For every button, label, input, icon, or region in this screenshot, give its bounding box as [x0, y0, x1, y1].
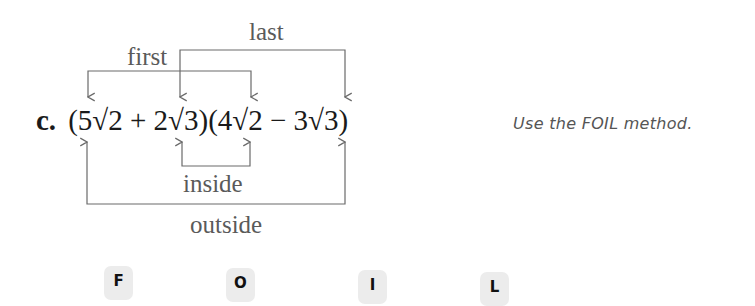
problem-letter: c.	[36, 104, 56, 136]
label-last: last	[249, 19, 284, 44]
expr-part: )	[339, 104, 349, 136]
expr-part: − 3	[263, 104, 308, 136]
label-outside: outside	[190, 212, 262, 237]
expr-radical: √2	[232, 104, 262, 136]
first-bracket	[88, 71, 251, 97]
expr-radical: √2	[92, 104, 122, 136]
expr-radical: √3	[308, 104, 338, 136]
expr-part: (5	[68, 104, 92, 136]
last-bracket	[180, 50, 345, 97]
foil-tile-o: O	[226, 268, 255, 302]
expr-radical: √3	[168, 104, 198, 136]
foil-tile-f: F	[104, 266, 133, 300]
foil-tile-l: L	[480, 272, 509, 306]
expr-part: + 2	[123, 104, 168, 136]
expr-part: )(4	[199, 104, 233, 136]
foil-tile-i: I	[358, 270, 387, 304]
equation: c.(5√2 + 2√3)(4√2 − 3√3)	[36, 106, 348, 135]
inside-bracket	[182, 142, 250, 166]
label-first: first	[127, 44, 167, 69]
label-inside: inside	[183, 171, 243, 196]
hint-text: Use the FOIL method.	[513, 114, 693, 133]
